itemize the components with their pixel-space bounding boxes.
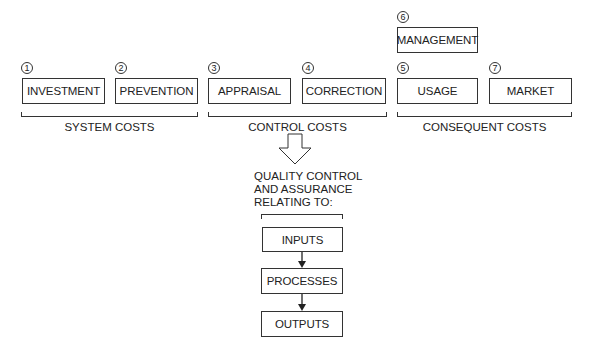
flow-arrows-icon xyxy=(0,0,592,356)
